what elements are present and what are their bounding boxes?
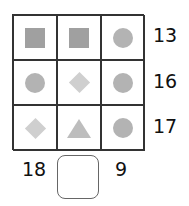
row-sum-2: 16 [153,70,177,92]
cell-r3-c3 [101,105,145,151]
diamond-icon [68,72,89,93]
row-sum-3: 17 [153,115,177,137]
row-sum-1: 13 [153,24,177,46]
column-sum-1: 18 [22,158,46,180]
cell-r1-c2 [57,15,101,60]
circle-icon [113,28,133,48]
circle-icon [25,73,45,93]
cell-r3-c1 [13,105,57,151]
square-icon [69,28,89,48]
circle-icon [113,73,133,93]
triangle-icon [67,119,91,138]
cell-r2-c3 [101,60,145,105]
cell-r3-c2 [57,105,101,151]
circle-icon [113,118,133,138]
square-icon [25,28,45,48]
answer-input-box[interactable] [57,155,99,199]
cell-r2-c1 [13,60,57,105]
cell-r1-c1 [13,15,57,60]
cell-r2-c2 [57,60,101,105]
diamond-icon [24,117,45,138]
column-sum-3: 9 [115,158,127,180]
cell-r1-c3 [101,15,145,60]
shape-grid [12,14,144,150]
